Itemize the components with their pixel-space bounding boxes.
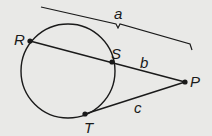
secant-tangent-diagram: R S P T a b c: [0, 0, 212, 136]
label-s: S: [111, 45, 121, 62]
point-r: [27, 38, 32, 43]
label-r: R: [14, 31, 25, 48]
label-b: b: [140, 54, 148, 71]
circle: [21, 24, 115, 118]
point-t: [82, 111, 87, 116]
point-p: [182, 79, 187, 84]
label-t: T: [84, 119, 95, 136]
secant-line-rp: [30, 41, 185, 82]
label-c: c: [134, 99, 142, 116]
label-a: a: [114, 5, 122, 22]
label-p: P: [190, 73, 200, 90]
